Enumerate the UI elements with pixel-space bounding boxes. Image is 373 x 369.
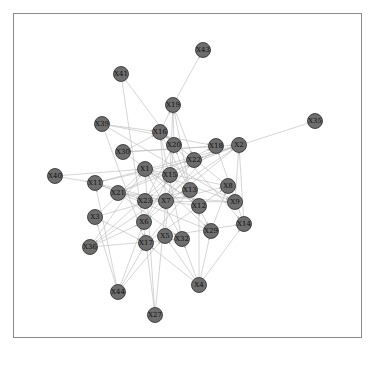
node-label: X22 <box>187 156 201 164</box>
edge-X44-X11 <box>97 190 117 284</box>
node-X32[interactable]: X32 <box>175 232 190 247</box>
edge-X20-X19 <box>173 112 174 137</box>
node-label: X30 <box>116 148 130 156</box>
node-label: X41 <box>114 70 128 78</box>
node-label: X6 <box>139 218 149 226</box>
node-X14[interactable]: X14 <box>237 217 252 232</box>
node-X7[interactable]: X7 <box>159 194 174 209</box>
node-X17[interactable]: X17 <box>139 236 154 251</box>
node-label: X17 <box>139 239 153 247</box>
edge-X4-X29 <box>201 238 210 277</box>
edge-X44-X3 <box>97 224 116 285</box>
node-label: X27 <box>148 311 162 319</box>
node-X39[interactable]: X39 <box>95 117 110 132</box>
network-graph: X43X41X19X39X35X16X20X18X2X30X22X40X11X1… <box>0 0 373 369</box>
node-label: X9 <box>230 198 239 206</box>
edge-X15-X36 <box>96 180 165 242</box>
node-label: X5 <box>160 232 169 240</box>
node-label: X1 <box>140 165 149 173</box>
edge-X3-X17 <box>102 220 140 239</box>
node-X40[interactable]: X40 <box>48 169 63 184</box>
node-label: X11 <box>88 179 102 187</box>
node-X18[interactable]: X18 <box>209 139 224 154</box>
node-X19[interactable]: X19 <box>166 98 181 113</box>
node-X12[interactable]: X12 <box>192 199 207 214</box>
node-label: X29 <box>204 227 218 235</box>
node-label: X36 <box>83 243 97 251</box>
edge-X9-X2 <box>236 152 239 194</box>
node-label: X19 <box>166 101 180 109</box>
edge-X27-X17 <box>147 250 154 307</box>
node-X20[interactable]: X20 <box>167 138 182 153</box>
node-X9[interactable]: X9 <box>228 195 243 210</box>
node-X15[interactable]: X15 <box>163 168 178 183</box>
node-X1[interactable]: X1 <box>138 162 153 177</box>
node-X2[interactable]: X2 <box>232 138 247 153</box>
node-X43[interactable]: X43 <box>196 43 211 58</box>
node-label: X40 <box>48 172 62 180</box>
node-label: X12 <box>192 202 206 210</box>
node-layer: X43X41X19X39X35X16X20X18X2X30X22X40X11X1… <box>48 43 323 323</box>
node-X21[interactable]: X21 <box>111 186 126 201</box>
node-X41[interactable]: X41 <box>114 67 129 82</box>
edge-X19-X43 <box>177 57 200 99</box>
node-label: X21 <box>111 189 125 197</box>
node-X11[interactable]: X11 <box>88 176 103 191</box>
node-label: X14 <box>237 220 251 228</box>
node-label: X13 <box>183 186 197 194</box>
edge-X39-X9 <box>108 128 228 198</box>
node-X16[interactable]: X16 <box>153 125 168 140</box>
node-label: X20 <box>167 141 181 149</box>
edge-X4-X5 <box>169 242 194 279</box>
node-X3[interactable]: X3 <box>88 210 103 225</box>
node-X35[interactable]: X35 <box>308 114 323 129</box>
node-label: X35 <box>308 117 322 125</box>
edge-X39-X16 <box>109 125 152 131</box>
node-label: X3 <box>90 213 99 221</box>
edge-X16-X19 <box>163 112 169 125</box>
node-X8[interactable]: X8 <box>221 179 236 194</box>
node-X13[interactable]: X13 <box>183 183 198 198</box>
node-X5[interactable]: X5 <box>158 229 173 244</box>
node-label: X32 <box>175 235 189 243</box>
node-label: X23 <box>138 197 152 205</box>
node-label: X39 <box>95 120 109 128</box>
node-X6[interactable]: X6 <box>137 215 152 230</box>
node-label: X7 <box>161 197 170 205</box>
node-label: X2 <box>234 141 243 149</box>
node-X44[interactable]: X44 <box>111 285 126 300</box>
node-X23[interactable]: X23 <box>138 194 153 209</box>
node-X36[interactable]: X36 <box>83 240 98 255</box>
node-X30[interactable]: X30 <box>116 145 131 160</box>
node-label: X15 <box>163 171 177 179</box>
node-label: X8 <box>223 182 232 190</box>
node-label: X44 <box>111 288 125 296</box>
node-X4[interactable]: X4 <box>192 278 207 293</box>
node-label: X4 <box>194 281 204 289</box>
edge-X40-X11 <box>62 177 87 181</box>
node-X22[interactable]: X22 <box>187 153 202 168</box>
node-X29[interactable]: X29 <box>204 224 219 239</box>
node-label: X16 <box>153 128 167 136</box>
node-label: X43 <box>196 46 210 54</box>
node-label: X18 <box>209 142 223 150</box>
node-X27[interactable]: X27 <box>148 308 163 323</box>
